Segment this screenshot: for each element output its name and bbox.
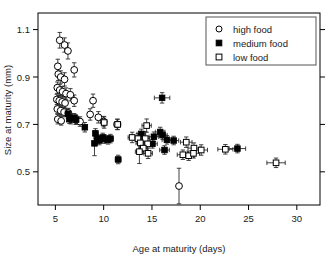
marker-open-circle [176,183,183,190]
marker-open-circle [61,76,68,83]
marker-open-square [198,147,204,153]
marker-open-square [144,123,150,129]
marker-filled-square [93,131,99,137]
x-axis-label: Age at maturity (days) [133,243,226,254]
marker-open-square [180,152,186,158]
legend-label: low food [233,52,268,63]
marker-filled-square [73,117,79,123]
y-tick-label: 0.7 [17,119,30,130]
x-tick-label: 15 [147,213,158,224]
plot-canvas: 51015202530 0.50.70.91.1 high foodmedium… [0,0,328,259]
legend-marker-filled-square [216,40,222,46]
marker-open-square [115,122,121,128]
marker-filled-square [159,95,165,101]
marker-open-square [101,120,107,126]
marker-open-circle [90,97,97,104]
marker-open-circle [58,117,65,124]
y-tick-label: 0.5 [17,166,30,177]
marker-open-square [183,139,189,145]
marker-open-circle [54,63,61,70]
legend-marker-open-square [216,54,222,60]
marker-filled-square [235,146,241,152]
marker-open-circle [87,111,94,118]
marker-filled-square [171,138,177,144]
marker-filled-square [82,124,88,130]
marker-open-circle [65,48,72,55]
x-tick-label: 30 [292,213,303,224]
x-tick-label: 25 [243,213,254,224]
marker-open-square [223,146,229,152]
marker-open-circle [62,100,69,107]
marker-open-square [137,149,143,155]
marker-filled-square [92,141,98,147]
marker-filled-square [115,157,121,163]
legend-marker-open-circle [216,26,222,32]
marker-filled-square [108,136,114,142]
legend-label: medium food [233,38,288,49]
marker-filled-square [65,111,71,117]
x-tick-label: 5 [53,213,58,224]
marker-open-square [191,151,197,157]
marker-filled-square [162,147,168,153]
marker-open-circle [71,66,78,73]
legend-label: high food [233,24,272,35]
marker-open-square [129,135,135,141]
marker-filled-square [151,134,157,140]
marker-open-square [273,160,279,166]
y-axis-label: Size at maturity (mm) [2,65,13,155]
y-tick-label: 1.1 [17,24,30,35]
chart-legend: high foodmedium foodlow food [206,17,316,65]
y-tick-label: 0.9 [17,72,30,83]
x-tick-label: 10 [98,213,109,224]
marker-filled-square [164,137,170,143]
scatter-plot-figure: 51015202530 0.50.70.91.1 high foodmedium… [0,0,328,259]
x-tick-label: 20 [195,213,206,224]
marker-open-square [145,151,151,157]
marker-open-circle [71,97,78,104]
